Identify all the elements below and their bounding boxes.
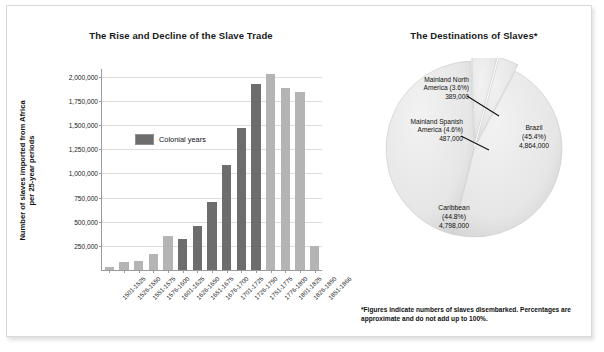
slice-label-brazil: Brazil(45.4%)4,864,000 — [491, 124, 577, 150]
figure-frame: The Rise and Decline of the Slave Trade … — [6, 5, 592, 337]
bar-1526-1550 — [119, 262, 128, 270]
bar-chart-title: The Rise and Decline of the Slave Trade — [7, 30, 355, 41]
bar-plot-area: 250,000500,000750,0001,000,0001,250,0001… — [101, 69, 322, 271]
y-axis-label: Number of slaves imported from Africaper… — [13, 69, 41, 271]
x-tick-mark — [271, 270, 272, 273]
y-tick-label: 1,250,000 — [69, 146, 98, 153]
x-tick-mark — [168, 270, 169, 273]
bar-1726-1750 — [237, 128, 246, 270]
pie-chart-panel: The Destinations of Slaves* Mainland Nor… — [355, 6, 593, 336]
x-tick-mark — [300, 270, 301, 273]
x-tick-mark — [139, 270, 140, 273]
x-tick-mark — [212, 270, 213, 273]
x-tick-mark — [227, 270, 228, 273]
x-tick-mark — [183, 270, 184, 273]
legend-label-colonial-years: Colonial years — [159, 135, 206, 144]
pie-wrapper: Mainland NorthAmerica (3.6%)389,000 Main… — [355, 6, 593, 338]
bar-1676-1700 — [207, 202, 216, 270]
pie-chart-footnote: *Figures indicate numbers of slaves dise… — [361, 306, 593, 324]
y-tick-label: 2,000,000 — [69, 73, 98, 80]
bar-1826-1850 — [295, 92, 304, 270]
x-tick-mark — [124, 270, 125, 273]
bar-chart-panel: The Rise and Decline of the Slave Trade … — [7, 6, 355, 336]
annotation-mainland-north-america: Mainland NorthAmerica (3.6%)389,000 — [357, 76, 469, 101]
x-tick-mark — [197, 270, 198, 273]
bar-1851-1866 — [310, 246, 319, 270]
y-tick-label: 750,000 — [74, 194, 98, 201]
x-tick-mark — [109, 270, 110, 273]
bar-1751-1775 — [251, 84, 260, 270]
x-tick-mark — [315, 270, 316, 273]
bar-1576-1600 — [149, 254, 158, 270]
bar-1651-1675 — [193, 226, 202, 270]
bar-1801-1825 — [281, 88, 290, 270]
bar-1701-1725 — [222, 165, 231, 270]
annotation-mainland-spanish-america: Mainland SpanishAmerica (4.6%)487,000 — [357, 118, 463, 143]
y-tick-label: 1,750,000 — [69, 97, 98, 104]
x-tick-mark — [285, 270, 286, 273]
y-tick-label: 500,000 — [74, 218, 98, 225]
bar-1776-1800 — [266, 74, 275, 270]
x-tick-mark — [241, 270, 242, 273]
y-tick-label: 1,500,000 — [69, 122, 98, 129]
bar-series — [102, 69, 322, 270]
chart-legend: Colonial years — [135, 134, 206, 145]
y-tick-label: 1,000,000 — [69, 170, 98, 177]
bar-1601-1625 — [163, 236, 172, 270]
legend-swatch-colonial-years — [135, 134, 154, 145]
x-tick-mark — [256, 270, 257, 273]
y-tick-label: 250,000 — [74, 242, 98, 249]
bar-1551-1575 — [134, 261, 143, 270]
slice-label-caribbean: Caribbean(44.8%)4,798,000 — [411, 204, 497, 230]
bar-1626-1650 — [178, 239, 187, 270]
x-tick-mark — [153, 270, 154, 273]
